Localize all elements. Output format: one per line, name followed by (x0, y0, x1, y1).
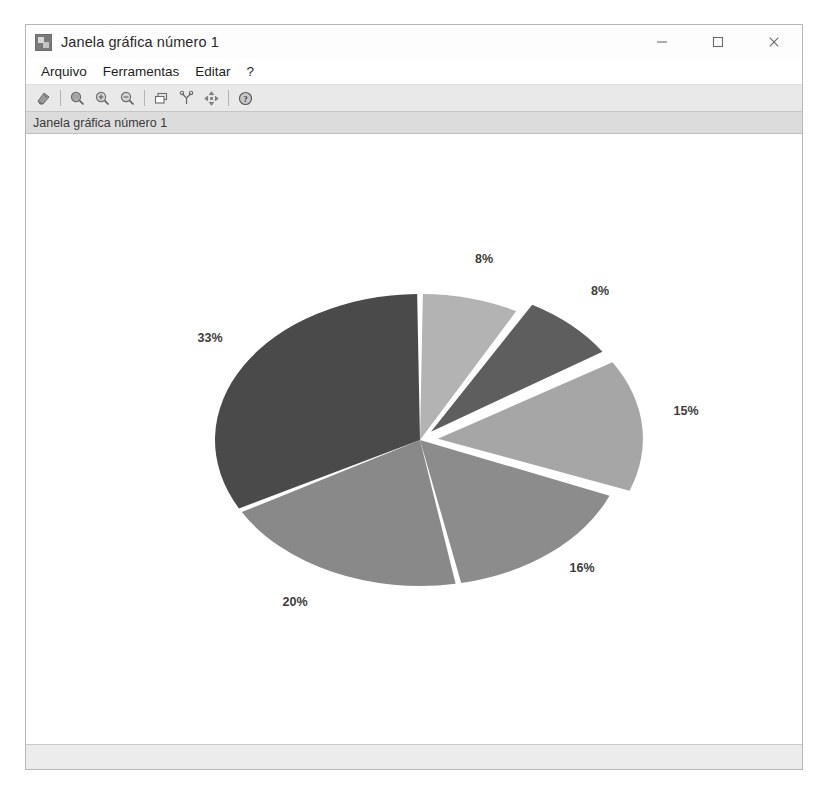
statusbar (26, 744, 802, 769)
pie-slice-label: 15% (673, 404, 698, 418)
minimize-button[interactable] (634, 25, 690, 59)
maximize-button[interactable] (690, 25, 746, 59)
toolbar: ? (26, 85, 802, 112)
toolbar-separator (144, 90, 145, 106)
window-controls (634, 25, 802, 59)
menu-item-ferramentas[interactable]: Ferramentas (95, 64, 188, 79)
pie-chart: 8%8%15%16%20%33% (26, 134, 802, 730)
window-title: Janela gráfica número 1 (61, 34, 219, 50)
zoom-out-icon[interactable] (115, 87, 140, 109)
file-export-icon[interactable] (31, 87, 56, 109)
pie-slice-label: 8% (475, 252, 493, 266)
zoom-area-icon[interactable] (65, 87, 90, 109)
menu-item-editar[interactable]: Editar (187, 64, 238, 79)
help-icon[interactable]: ? (233, 87, 258, 109)
zoom-in-icon[interactable] (90, 87, 115, 109)
pie-slice-label: 16% (569, 561, 594, 575)
pie-slice-label: 8% (591, 284, 609, 298)
toolbar-separator (228, 90, 229, 106)
svg-text:?: ? (243, 94, 248, 104)
graphics-window: Janela gráfica número 1 (25, 24, 803, 770)
menu-item-help[interactable]: ? (239, 64, 263, 79)
plot-canvas[interactable]: 8%8%15%16%20%33% (26, 134, 802, 744)
menu-item-arquivo[interactable]: Arquivo (33, 64, 95, 79)
pan-move-icon[interactable] (199, 87, 224, 109)
toolbar-separator (60, 90, 61, 106)
menubar: Arquivo Ferramentas Editar ? (26, 59, 802, 85)
infobar-label: Janela gráfica número 1 (33, 116, 167, 130)
rotate-3d-icon[interactable] (174, 87, 199, 109)
close-button[interactable] (746, 25, 802, 59)
pie-slice-label: 33% (197, 331, 222, 345)
rotate-2d-icon[interactable] (149, 87, 174, 109)
graphics-window-icon (35, 34, 52, 51)
pie-slice-label: 20% (282, 595, 307, 609)
window-titlebar[interactable]: Janela gráfica número 1 (26, 25, 802, 59)
graphic-window-infobar: Janela gráfica número 1 (26, 112, 802, 134)
screenshot-root: Janela gráfica número 1 (0, 0, 828, 797)
